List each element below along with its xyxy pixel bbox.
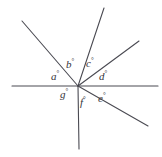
ray-diagonal-down-right (78, 86, 148, 126)
angle-label-a: a° (51, 70, 59, 82)
angle-label-b: b° (66, 58, 74, 70)
diagram-canvas (0, 0, 162, 157)
ray-group (12, 8, 158, 149)
geometry-diagram: a°b°c°d°e°f°g° (0, 0, 162, 157)
angle-label-d-degree-symbol: ° (105, 69, 108, 77)
ray-upper-left (22, 21, 78, 86)
angle-label-e: e° (98, 92, 106, 104)
angle-label-f-degree-symbol: ° (83, 95, 86, 103)
angle-label-c-degree-symbol: ° (91, 56, 94, 64)
angle-label-e-degree-symbol: ° (103, 91, 106, 99)
angle-label-a-degree-symbol: ° (57, 69, 60, 77)
angle-label-c: c° (86, 57, 94, 69)
angle-label-f: f° (80, 96, 86, 108)
angle-label-b-degree-symbol: ° (72, 57, 75, 65)
angle-label-g: g° (60, 88, 68, 100)
angle-label-d: d° (99, 70, 107, 82)
ray-down-vertical (78, 86, 79, 149)
angle-label-g-degree-symbol: ° (66, 87, 69, 95)
